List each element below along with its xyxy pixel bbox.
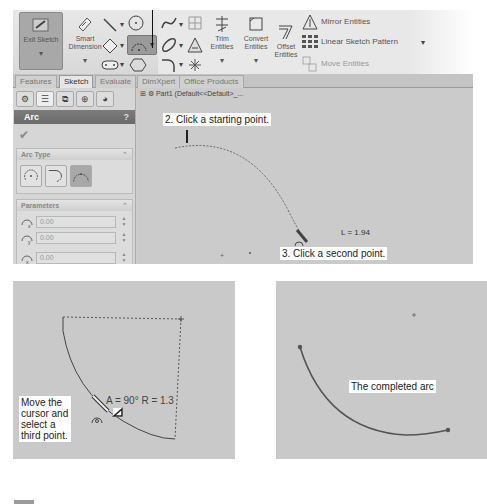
spline-tool-icon[interactable] [160, 14, 178, 32]
chevron-down-icon[interactable]: ▾ [179, 60, 183, 69]
completed-arc [276, 281, 487, 459]
arc-type-group: Arc Type ⌃ [16, 148, 133, 194]
chevron-down-icon[interactable]: ▾ [120, 60, 124, 69]
property-manager-tab-icon[interactable]: ☰ [36, 91, 54, 107]
text-tool-icon[interactable] [186, 36, 204, 54]
linear-sketch-pattern-label[interactable]: Linear Sketch Pattern [321, 37, 398, 46]
start-x-icon: x [20, 251, 34, 264]
ellipse-tool-icon[interactable] [160, 36, 178, 54]
exit-sketch-label: Exit Sketch [20, 36, 62, 44]
chevron-down-icon[interactable]: ▾ [239, 56, 273, 65]
center-x-icon: x [20, 215, 34, 229]
parameters-label: Parameters [21, 202, 59, 209]
smart-dimension-icon [75, 15, 95, 33]
collapse-icon[interactable]: ⌃ [122, 200, 128, 211]
callout-second-point: 3. Click a second point. [280, 247, 387, 260]
center-x-row: x 0.00 ▲▼ [20, 215, 132, 229]
arc-type-header[interactable]: Arc Type ⌃ [17, 149, 132, 160]
callout-line: third point. [21, 430, 69, 441]
configuration-manager-tab-icon[interactable]: ⧉ [56, 91, 74, 107]
help-icon[interactable]: ? [124, 110, 130, 124]
arc-preview [137, 88, 473, 264]
offset-entities-icon [276, 23, 296, 41]
center-y-icon: y [20, 231, 34, 245]
parameters-group: Parameters ⌃ x 0.00 ▲▼ y 0.00 ▲▼ x 0.00 … [16, 199, 133, 264]
arc-property-manager: ⚙ ☰ ⧉ ⊕ ◕ Arc ? ✔ Arc Type ⌃ [13, 88, 136, 264]
tab-office-products[interactable]: Office Products [179, 75, 244, 88]
tab-dimxpert[interactable]: DimXpert [137, 75, 180, 88]
arc-type-label: Arc Type [21, 151, 50, 158]
feature-manager-tab-icon[interactable]: ⚙ [16, 91, 34, 107]
mirror-entities-label[interactable]: Mirror Entities [321, 17, 370, 26]
slot-tool-icon[interactable] [101, 56, 119, 74]
origin-marker: + [220, 252, 224, 259]
arc-title-label: Arc [24, 112, 39, 122]
three-point-arc-icon [71, 166, 91, 186]
callout-line: select a [21, 419, 69, 430]
chevron-down-icon[interactable]: ▾ [179, 20, 183, 29]
ok-check-icon[interactable]: ✔ [19, 128, 29, 142]
exit-sketch-icon [31, 16, 51, 34]
callout-line: cursor and [21, 408, 69, 419]
angle-radius-readout: A = 90° R = 1.3 [106, 395, 174, 406]
start-x-spinner[interactable]: ▲▼ [120, 251, 128, 264]
linear-pattern-icon[interactable] [301, 33, 319, 51]
chevron-down-icon[interactable]: ▾ [120, 41, 124, 50]
offset-entities-label: Offset Entities [271, 43, 301, 59]
graphics-area[interactable]: ⊞ ⚙ Part1 (Default<<Default>_... 2. Clic… [137, 88, 473, 264]
tab-evaluate[interactable]: Evaluate [95, 75, 136, 88]
convert-entities-button[interactable]: Convert Entities ▾ [239, 12, 273, 70]
svg-text:x: x [28, 223, 31, 229]
centerpoint-arc-icon [130, 37, 148, 55]
trim-entities-label: Trim Entities [206, 35, 238, 51]
offset-entities-button[interactable]: Offset Entities [271, 20, 301, 78]
length-readout: L = 1.94 [341, 228, 370, 237]
centerpoint-arc-icon [21, 166, 41, 186]
center-x-input[interactable]: 0.00 [36, 216, 116, 228]
centerpoint-arc-button[interactable] [20, 165, 42, 187]
page-marker [14, 500, 34, 504]
center-x-spinner[interactable]: ▲▼ [120, 215, 128, 229]
svg-text:x: x [26, 259, 29, 264]
move-entities-icon[interactable] [301, 55, 319, 73]
tab-features[interactable]: Features [15, 75, 57, 88]
point-tool-icon[interactable] [186, 56, 204, 74]
trim-entities-button[interactable]: Trim Entities ▾ [206, 12, 238, 70]
line-tool-icon[interactable] [101, 16, 119, 34]
tangent-arc-icon [46, 166, 66, 186]
fillet-tool-icon[interactable] [160, 56, 178, 74]
start-x-input[interactable]: 0.00 [36, 252, 116, 264]
sketch-screenshot-step-2-3: Exit Sketch ▾ Smart Dimension ▾ ▾ ▾ ▾ ▾ … [13, 10, 473, 264]
exit-sketch-button[interactable]: Exit Sketch ▾ [19, 12, 63, 70]
tangent-arc-button[interactable] [45, 165, 67, 187]
center-y-spinner[interactable]: ▲▼ [120, 231, 128, 245]
rectangle-tool-icon[interactable] [101, 37, 119, 55]
polygon-tool-icon[interactable] [129, 56, 147, 74]
command-tabs: Features Sketch Evaluate DimXpert Office… [13, 74, 473, 88]
chevron-down-icon[interactable]: ▾ [179, 41, 183, 50]
center-y-input[interactable]: 0.00 [36, 232, 116, 244]
chevron-down-icon[interactable]: ▾ [421, 38, 425, 47]
convert-entities-label: Convert Entities [239, 35, 273, 51]
trim-entities-icon [212, 15, 232, 33]
mirror-entities-icon[interactable] [301, 13, 319, 31]
dimxpert-manager-tab-icon[interactable]: ⊕ [76, 91, 94, 107]
collapse-icon[interactable]: ⌃ [122, 149, 128, 160]
display-manager-tab-icon[interactable]: ◕ [96, 91, 114, 107]
circle-tool-icon[interactable] [127, 14, 145, 32]
three-point-arc-button[interactable] [70, 165, 92, 187]
convert-entities-icon [246, 15, 266, 33]
chevron-down-icon[interactable]: ▾ [206, 56, 238, 65]
chevron-down-icon[interactable]: ▾ [20, 49, 62, 58]
center-y-row: y 0.00 ▲▼ [20, 231, 132, 245]
chevron-down-icon[interactable]: ▾ [120, 20, 124, 29]
move-entities-label[interactable]: Move Entities [321, 59, 369, 68]
start-x-row: x 0.00 ▲▼ [20, 251, 132, 264]
sketch-screenshot-completed: The completed arc [276, 281, 487, 459]
plane-tool-icon[interactable] [186, 14, 204, 32]
callout-pointer-line [152, 10, 153, 48]
callout-line: Move the [21, 397, 69, 408]
tab-sketch[interactable]: Sketch [59, 75, 93, 88]
sketch-screenshot-step-3: A = 90° R = 1.3 Move the cursor and sele… [13, 281, 235, 459]
parameters-header[interactable]: Parameters ⌃ [17, 200, 132, 211]
